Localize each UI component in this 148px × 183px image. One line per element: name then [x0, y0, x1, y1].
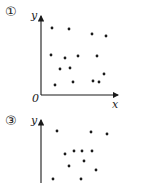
data-point	[96, 55, 99, 58]
data-point	[91, 150, 94, 153]
data-point	[98, 81, 101, 84]
x-axis-label: x	[112, 99, 118, 110]
data-point	[51, 27, 54, 30]
data-point	[83, 160, 86, 163]
data-points	[52, 130, 109, 181]
data-point	[50, 54, 53, 57]
data-point	[92, 80, 95, 83]
data-point	[95, 169, 98, 172]
y-axis-label: y	[31, 115, 37, 126]
data-point	[56, 130, 59, 133]
data-point	[73, 150, 76, 153]
data-point	[52, 178, 55, 181]
data-point	[72, 81, 75, 84]
data-point	[106, 133, 109, 136]
data-point	[77, 55, 80, 58]
data-point	[69, 67, 72, 70]
scatter-plot-3	[41, 120, 108, 183]
data-point	[91, 33, 94, 36]
data-point	[103, 73, 106, 76]
data-point	[80, 178, 83, 181]
data-point	[64, 57, 67, 60]
panel-label-1: ①	[5, 5, 17, 18]
y-axis-label: y	[31, 10, 37, 21]
data-point	[68, 28, 71, 31]
data-points	[50, 27, 108, 87]
data-point	[64, 153, 67, 156]
scatter-plot-1	[41, 16, 118, 95]
panel-label-3: ③	[5, 114, 17, 127]
data-point	[105, 35, 108, 38]
data-point	[68, 165, 71, 168]
data-point	[81, 150, 84, 153]
scatter-plots	[0, 0, 148, 183]
data-point	[59, 68, 62, 71]
origin-label: 0	[32, 93, 39, 104]
data-point	[54, 84, 57, 87]
data-point	[90, 131, 93, 134]
